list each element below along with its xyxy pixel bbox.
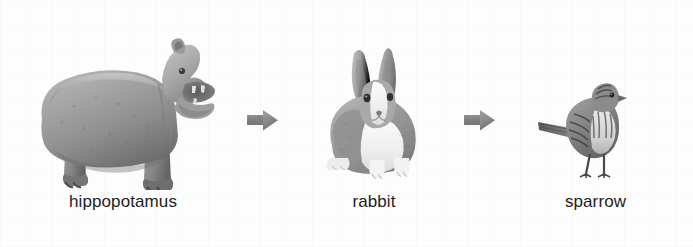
sparrow-photo xyxy=(536,78,646,183)
sequence-item-sparrow: sparrow xyxy=(518,0,666,247)
sequence-item-rabbit: rabbit xyxy=(300,0,448,247)
hippopotamus-photo xyxy=(22,24,220,190)
arrow-1-container xyxy=(246,107,282,139)
arrow-2-container xyxy=(463,107,499,139)
sequence-figure: hippopotamus xyxy=(0,0,693,247)
right-arrow-icon xyxy=(463,107,499,135)
right-arrow-icon xyxy=(246,107,282,135)
label-rabbit: rabbit xyxy=(300,193,448,210)
label-hippopotamus: hippopotamus xyxy=(0,193,246,210)
sequence-item-hippopotamus: hippopotamus xyxy=(0,0,232,247)
rabbit-photo xyxy=(314,42,434,184)
label-sparrow: sparrow xyxy=(518,193,673,210)
